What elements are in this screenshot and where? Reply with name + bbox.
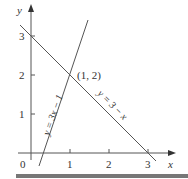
intersection-label: (1, 2) [77,69,101,82]
x-axis-arrow-icon [168,150,176,156]
chart: 0 1 2 3 1 2 3 x y y = 3x − 1 y = 3 − x (… [0,0,188,179]
y-tick-label-1: 1 [19,108,25,120]
y-axis-arrow-icon [28,4,34,12]
x-axis-label: x [167,158,173,170]
y-axis-label: y [16,4,22,16]
bottom-bar [16,174,188,178]
x-tick-label-3: 3 [145,158,151,170]
line-y-3-minus-x [20,25,156,161]
y-tick-label-2: 2 [19,69,25,81]
line1-label: y = 3x − 1 [40,93,65,138]
line-y-3x-minus-1 [39,20,88,166]
x-tick-label-2: 2 [106,158,112,170]
x-tick-label-1: 1 [67,158,73,170]
axes [18,10,170,160]
y-tick-label-3: 3 [19,30,25,42]
origin-label: 0 [20,158,26,170]
